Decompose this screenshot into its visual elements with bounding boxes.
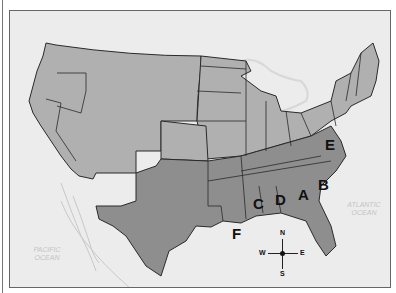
state-label-c: C — [253, 195, 264, 212]
compass-rose: N S W E — [258, 229, 308, 279]
pacific-ocean-label: PACIFIC OCEAN — [27, 246, 67, 262]
map-frame: E F C D A B PACIFIC OCEAN ATLANTIC OCEAN… — [9, 10, 391, 288]
atlantic-ocean-label: ATLANTIC OCEAN — [342, 201, 386, 217]
compass-south: S — [280, 270, 285, 277]
state-label-b: B — [318, 176, 329, 193]
compass-north: N — [280, 229, 285, 236]
state-label-a: A — [298, 186, 309, 203]
state-label-e: E — [325, 136, 335, 153]
compass-east: E — [300, 249, 305, 256]
state-label-d: D — [275, 191, 286, 208]
state-label-f: F — [232, 225, 241, 242]
compass-west: W — [259, 249, 266, 256]
page-edge-line — [2, 0, 3, 293]
